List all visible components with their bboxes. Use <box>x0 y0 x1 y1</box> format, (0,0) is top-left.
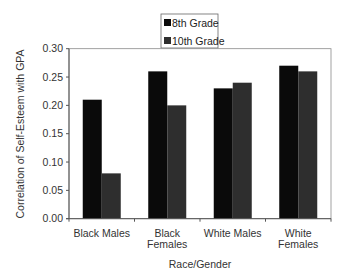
y-axis: 0.000.050.100.150.200.250.30 <box>43 42 69 224</box>
x-category-label: White Males <box>204 227 262 239</box>
x-axis: Black MalesBlackFemalesWhite MalesWhiteF… <box>66 219 331 250</box>
y-tick-label: 0.20 <box>43 99 64 111</box>
bar-8th-grade-black-females <box>148 71 167 218</box>
y-tick-label: 0.30 <box>43 42 64 54</box>
y-axis-title: Correlation of Self-Esteem with GPA <box>14 49 26 218</box>
bar-8th-grade-white-females <box>279 66 298 219</box>
x-category-label: BlackFemales <box>147 227 187 250</box>
legend-swatch <box>164 37 171 44</box>
legend-swatch <box>164 19 171 26</box>
bar-10th-grade-white-males <box>233 83 252 219</box>
y-tick-label: 0.25 <box>43 71 64 83</box>
legend-label: 8th Grade <box>172 17 219 29</box>
bar-10th-grade-black-males <box>102 173 121 218</box>
bar-8th-grade-black-males <box>83 100 102 219</box>
y-tick-label: 0.05 <box>43 184 64 196</box>
bar-chart: 8th Grade10th Grade 0.000.050.100.150.20… <box>0 0 350 278</box>
x-category-label: WhiteFemales <box>278 227 318 250</box>
bar-8th-grade-white-males <box>214 88 233 218</box>
bar-10th-grade-white-females <box>298 71 317 218</box>
x-category-label: Black Males <box>73 227 130 239</box>
y-tick-label: 0.10 <box>43 156 64 168</box>
legend-label: 10th Grade <box>172 35 225 47</box>
x-axis-title: Race/Gender <box>169 258 232 270</box>
y-tick-label: 0.00 <box>43 212 64 224</box>
plot-area <box>69 49 331 219</box>
bar-10th-grade-black-females <box>167 105 186 218</box>
legend: 8th Grade10th Grade <box>161 14 225 48</box>
y-tick-label: 0.15 <box>43 127 64 139</box>
